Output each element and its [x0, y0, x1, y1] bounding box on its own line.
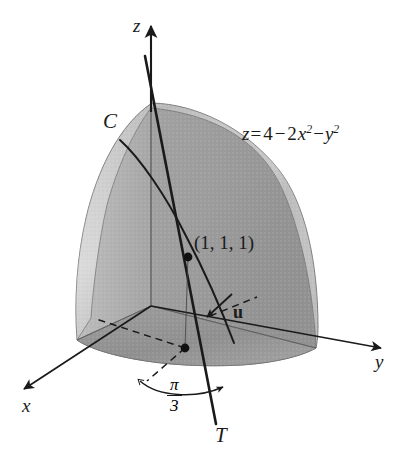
equation-minus-1: −	[274, 123, 287, 144]
curve-c-label: C	[103, 111, 117, 132]
equation-y-exponent: 2	[333, 123, 339, 136]
surface-equation-label: z=4−2x2−y2	[242, 124, 339, 143]
equation-coefficient-2: 2	[286, 123, 298, 144]
y-axis-label: y	[375, 352, 383, 371]
equation-equals: =	[249, 123, 262, 144]
z-axis-label: z	[133, 16, 140, 35]
point-marker-base-110	[181, 344, 190, 353]
figure-canvas: z y x C T (1, 1, 1) u z=4−2x2−y2 π 3	[0, 0, 403, 451]
point-coordinates-label: (1, 1, 1)	[194, 233, 254, 252]
equation-minus-2: −	[312, 123, 325, 144]
direction-vector-u-label: u	[233, 303, 243, 321]
surface-diagram-svg	[0, 0, 403, 451]
tangent-t-label: T	[215, 425, 227, 446]
angle-denominator: 3	[167, 396, 182, 415]
point-marker-111	[184, 253, 193, 262]
equation-constant: 4	[262, 123, 274, 144]
angle-label-pi-over-3: π 3	[167, 376, 182, 415]
angle-numerator: π	[167, 376, 182, 396]
angle-fraction: π 3	[167, 376, 182, 415]
x-axis-label: x	[22, 396, 30, 415]
